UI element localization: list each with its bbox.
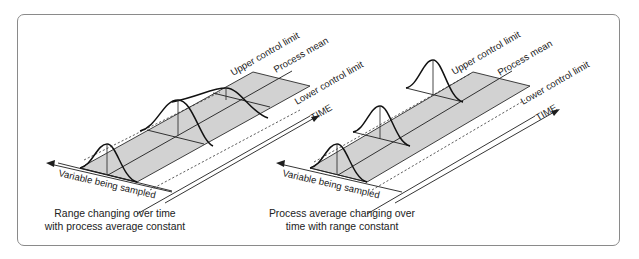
right-caption: Process average changing over time with … xyxy=(252,207,432,233)
left-panel xyxy=(46,49,330,214)
right-panel xyxy=(276,49,560,214)
left-caption: Range changing over time with process av… xyxy=(30,207,200,233)
left-caption-line-1: Range changing over time xyxy=(30,207,200,220)
right-time-axis-label: TIME xyxy=(534,102,559,123)
right-lower-control-limit-label: Lower control limit xyxy=(519,58,592,106)
right-caption-line-2: time with range constant xyxy=(252,220,432,233)
right-caption-line-1: Process average changing over xyxy=(252,207,432,220)
left-caption-line-2: with process average constant xyxy=(30,220,200,233)
